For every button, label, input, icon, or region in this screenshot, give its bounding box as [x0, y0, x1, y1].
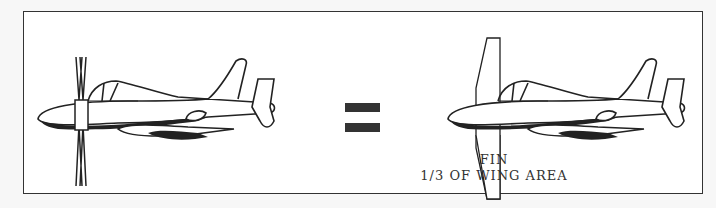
- fin-label: FIN: [444, 152, 544, 167]
- fin-area-label: 1/3 OF WING AREA: [404, 168, 584, 183]
- diagram-art: [0, 0, 716, 208]
- equals-sign-icon: [345, 103, 380, 132]
- left-aircraft: [38, 57, 275, 186]
- cruciform-fins-icon: [75, 57, 88, 186]
